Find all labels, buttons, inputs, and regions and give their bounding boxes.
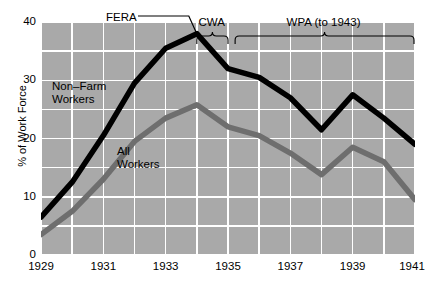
- wpa-brace: [235, 32, 414, 44]
- cwa-brace: [197, 32, 228, 44]
- fera-leader-line: [138, 16, 197, 34]
